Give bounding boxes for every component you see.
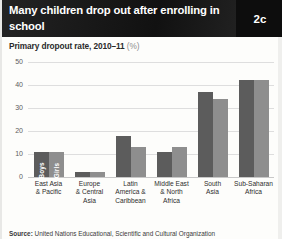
bar-girls[interactable] [131,147,146,177]
category-axis-labels: East Asia& PacificEurope& CentralAsiaLat… [28,180,274,218]
bar-boys[interactable] [157,152,172,177]
y-axis-tick-50: 50 [5,58,23,65]
figure-header: Many children drop out after enrolling i… [2,0,282,37]
y-axis-tick-10: 10 [5,150,23,157]
bar-girls[interactable] [90,172,105,177]
source-label: Source: [9,230,33,237]
figure-number-badge: 2c [236,0,282,37]
category-label: East Asia& Pacific [28,180,69,218]
source-text: United Nations Educational, Scientific a… [33,230,215,237]
bar-group [151,62,192,177]
category-label: Sub-SaharanAfrica [233,180,274,218]
bar-girls[interactable] [254,80,269,177]
bar-boys[interactable] [116,136,131,177]
source-note: Source: United Nations Educational, Scie… [9,230,282,238]
bar-group [233,62,274,177]
gridline-0 [28,177,274,178]
series-label-girls: Girls [53,163,60,178]
category-label: Europe& CentralAsia [69,180,110,218]
figure-title: Many children drop out after enrolling i… [9,3,237,34]
bar-boys[interactable] [198,92,213,177]
chart-subtitle-unit: (%) [127,41,140,51]
category-label: LatinAmerica &Caribbean [110,180,151,218]
bar-group [110,62,151,177]
bar-boys[interactable] [239,80,254,177]
bar-groups: BoysGirls [28,62,274,177]
y-axis-tick-30: 30 [5,104,23,111]
category-label: SouthAsia [192,180,233,218]
bar-girls[interactable]: Girls [49,152,64,177]
y-axis-tick-40: 40 [5,81,23,88]
y-axis-tick-20: 20 [5,127,23,134]
series-label-boys: Boys [38,162,45,178]
bar-girls[interactable] [172,147,187,177]
bar-group [69,62,110,177]
chart-plot-area: 01020304050 BoysGirls [28,62,274,177]
bar-group: BoysGirls [28,62,69,177]
chart-subtitle: Primary dropout rate, 2010–11 (%) [9,41,139,51]
category-label: Middle East& NorthAfrica [151,180,192,218]
bar-girls[interactable] [213,99,228,177]
figure-panel: Many children drop out after enrolling i… [0,0,282,239]
bar-boys[interactable]: Boys [34,152,49,177]
right-edge-strip [278,37,282,239]
y-axis-tick-0: 0 [5,173,23,180]
bar-group [192,62,233,177]
bar-boys[interactable] [75,172,90,177]
chart-subtitle-text: Primary dropout rate, 2010–11 [9,41,125,51]
